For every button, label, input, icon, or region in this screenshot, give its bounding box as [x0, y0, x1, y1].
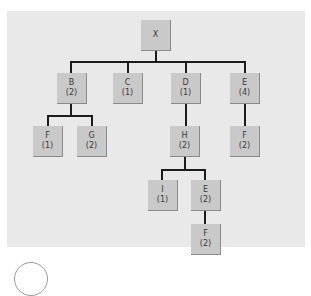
node-d: D (1): [171, 73, 201, 104]
node-label: D: [182, 78, 188, 88]
edge-to-c: [127, 61, 129, 73]
node-g: G (2): [77, 126, 107, 157]
node-count: (2): [86, 141, 97, 151]
node-i: I (1): [148, 180, 178, 211]
edge-d-to-h: [185, 104, 187, 126]
node-count: (2): [200, 195, 211, 205]
node-count: (1): [180, 88, 191, 98]
node-count: (2): [66, 88, 77, 98]
node-label: B: [69, 78, 75, 88]
edge-to-b: [70, 61, 72, 73]
node-f-under-e-h: F (2): [191, 224, 221, 255]
node-x: X: [141, 20, 171, 51]
edge-to-e-h: [204, 169, 206, 180]
node-count: (1): [157, 195, 168, 205]
node-e-under-h: E (2): [191, 180, 221, 211]
node-b: B (2): [57, 73, 87, 104]
edge-to-f-b: [47, 115, 49, 126]
node-label: I: [161, 185, 163, 195]
node-e: E (4): [230, 73, 260, 104]
node-label: C: [125, 78, 131, 88]
node-c: C (1): [113, 73, 143, 104]
node-label: H: [181, 131, 187, 141]
edge-to-d: [185, 61, 187, 73]
node-label: G: [88, 131, 94, 141]
node-count: (1): [122, 88, 133, 98]
edge-b-bar: [47, 115, 93, 117]
node-f-under-e: F (2): [230, 126, 260, 157]
node-count: (2): [200, 239, 211, 249]
node-f-under-b: F (1): [33, 126, 63, 157]
node-label: F: [45, 131, 50, 141]
node-count: (2): [239, 141, 250, 151]
node-label: E: [203, 185, 208, 195]
edge-to-g: [91, 115, 93, 126]
node-count: (2): [179, 141, 190, 151]
node-label: F: [242, 131, 247, 141]
edge-level1-bar: [70, 61, 246, 63]
edge-h-bar: [161, 169, 206, 171]
node-count: (1): [42, 141, 53, 151]
edge-to-e: [244, 61, 246, 73]
node-label: X: [153, 30, 158, 40]
node-count: (4): [239, 88, 250, 98]
decorative-arc: [14, 262, 48, 296]
node-h: H (2): [170, 126, 200, 157]
node-label: F: [203, 229, 208, 239]
node-label: E: [242, 78, 247, 88]
edge-e-to-f: [244, 104, 246, 126]
edge-e-h-to-f: [204, 211, 206, 224]
edge-to-i: [161, 169, 163, 180]
